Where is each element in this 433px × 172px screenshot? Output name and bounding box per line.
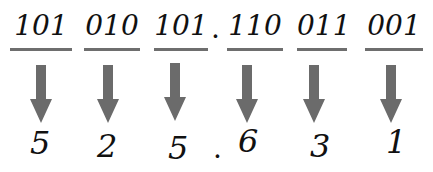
down-arrow-icon (164, 63, 186, 121)
binary-digits: 101 (154, 10, 208, 42)
down-arrow-icon (30, 65, 52, 123)
binary-digits: 010 (84, 10, 140, 42)
binary-digits: 011 (297, 10, 347, 42)
octal-digit-6: 1 (386, 124, 406, 160)
octal-digit-4: 6 (238, 123, 258, 159)
octal-digit-2: 2 (97, 128, 117, 164)
underline (154, 48, 208, 51)
binary-group-6: 001 (365, 10, 423, 51)
octal-digit-3: 5 (168, 130, 188, 166)
binary-digits: 001 (365, 10, 423, 42)
binary-group-4: 110 (227, 10, 283, 51)
binary-digits: 110 (227, 10, 283, 42)
underline (227, 48, 283, 51)
radix-point-top: . (211, 12, 220, 45)
down-arrow-icon (236, 65, 258, 123)
down-arrow-icon (97, 65, 119, 123)
down-arrow-icon (303, 65, 325, 123)
underline (10, 48, 72, 51)
octal-digit-5: 3 (310, 128, 330, 164)
binary-group-5: 011 (297, 10, 347, 51)
underline (365, 48, 423, 51)
binary-digits: 101 (10, 10, 72, 42)
binary-group-2: 010 (84, 10, 140, 51)
down-arrow-icon (380, 65, 402, 123)
underline (84, 48, 140, 51)
binary-group-1: 101 (10, 10, 72, 51)
underline (297, 48, 347, 51)
binary-group-3: 101 (154, 10, 208, 51)
radix-point-bottom: . (213, 132, 222, 165)
octal-digit-1: 5 (30, 125, 50, 161)
